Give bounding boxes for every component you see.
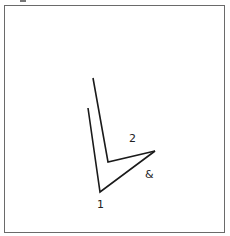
angle-diagram [0,0,230,236]
label-ampersand: & [145,169,154,180]
line-2 [93,78,155,162]
label-two: 2 [129,133,136,144]
label-one: 1 [97,199,104,210]
